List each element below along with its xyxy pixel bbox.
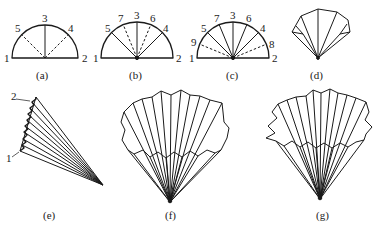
point-label: 8: [269, 38, 275, 50]
point-label: 7: [118, 12, 124, 24]
caption-g: (g): [316, 209, 329, 222]
panel-f-fan-cup: [121, 90, 229, 203]
caption-a: (a): [36, 69, 49, 82]
point-label: 3: [42, 12, 48, 24]
panel-a-labels: 1 2 5 3 4 (a): [4, 12, 88, 82]
point-label: 3: [134, 9, 140, 21]
panel-c-semicircle: [197, 22, 269, 60]
panel-d-folded-cone: [292, 9, 350, 59]
panel-e-pleated-stack: [12, 97, 103, 185]
point-label: 6: [150, 12, 156, 24]
point-label: 5: [201, 22, 207, 34]
point-label: 1: [4, 52, 10, 64]
caption-b: (b): [129, 69, 142, 82]
point-label: 7: [214, 12, 220, 24]
point-label: 3: [230, 9, 236, 21]
point-label: 6: [246, 12, 252, 24]
point-label: 4: [163, 22, 169, 34]
caption-f: (f): [165, 209, 176, 222]
point-label: 9: [191, 36, 197, 48]
caption-d: (d): [310, 69, 323, 82]
point-label: 2: [82, 52, 88, 64]
point-label: 5: [105, 22, 111, 34]
point-label: 1: [6, 152, 12, 164]
caption-c: (c): [226, 69, 239, 82]
point-label: 2: [176, 52, 182, 64]
point-label: 2: [11, 90, 17, 102]
caption-e: (e): [43, 209, 56, 222]
folding-diagram: 1 2 5 3 4 (a) 1 2 5 7 3 6 4 (b) 1 2 9 5 …: [0, 0, 377, 229]
point-label: 1: [189, 52, 195, 64]
point-label: 4: [260, 22, 266, 34]
point-label: 1: [93, 52, 99, 64]
point-label: 4: [68, 22, 74, 34]
point-label: 2: [272, 52, 278, 64]
point-label: 5: [15, 22, 21, 34]
panel-g-fan-cup: [266, 89, 372, 200]
